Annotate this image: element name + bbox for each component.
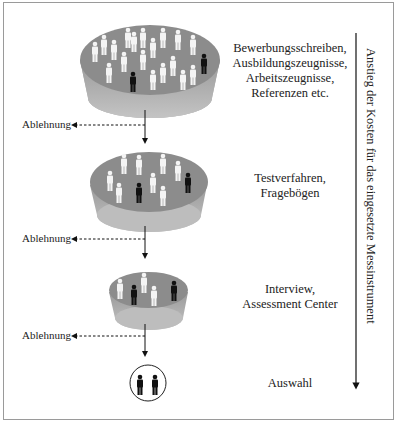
bowl-stage-2 xyxy=(90,152,208,232)
selected-candidates-circle xyxy=(130,365,166,401)
cost-axis-label: Anstieg der Kosten für das eingesetzte M… xyxy=(363,48,378,324)
bowl-stage-1 xyxy=(80,25,220,118)
stage-3-label: Interview, Assessment Center xyxy=(225,282,355,312)
rejection-label-3: Ablehnung xyxy=(22,329,71,341)
stage-1-label: Bewerbungsschreiben, Ausbildungszeugniss… xyxy=(225,41,355,101)
stage-4-label: Auswahl xyxy=(225,376,355,391)
bowl-stage-3 xyxy=(109,272,188,330)
rejection-label-2: Ablehnung xyxy=(22,232,71,244)
stage-2-label: Testverfahren, Fragebögen xyxy=(225,171,355,201)
rejection-label-1: Ablehnung xyxy=(22,118,71,130)
